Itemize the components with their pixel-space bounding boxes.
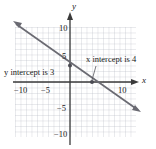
y-intercept-point	[68, 64, 72, 68]
x-axis-label: x	[142, 76, 146, 85]
y-tick-label-5: 5	[62, 52, 66, 61]
y-axis-label: y	[72, 2, 76, 11]
y-tick-label-neg10: −10	[54, 130, 67, 139]
x-tick-label-10: 10	[118, 86, 127, 95]
y-tick-label-10: 10	[59, 24, 68, 33]
x-intercept-point	[90, 80, 94, 84]
y-intercept-annotation: y intercept is 3	[4, 68, 54, 77]
x-tick-label-neg10: −10	[14, 86, 27, 95]
coordinate-plane-figure: y x −10 −5 10 10 5 −5 −10 y intercept is…	[0, 0, 156, 149]
x-tick-label-neg5: −5	[41, 86, 50, 95]
y-tick-label-neg5: −5	[57, 104, 66, 113]
x-intercept-annotation: x intercept is 4	[86, 55, 136, 64]
